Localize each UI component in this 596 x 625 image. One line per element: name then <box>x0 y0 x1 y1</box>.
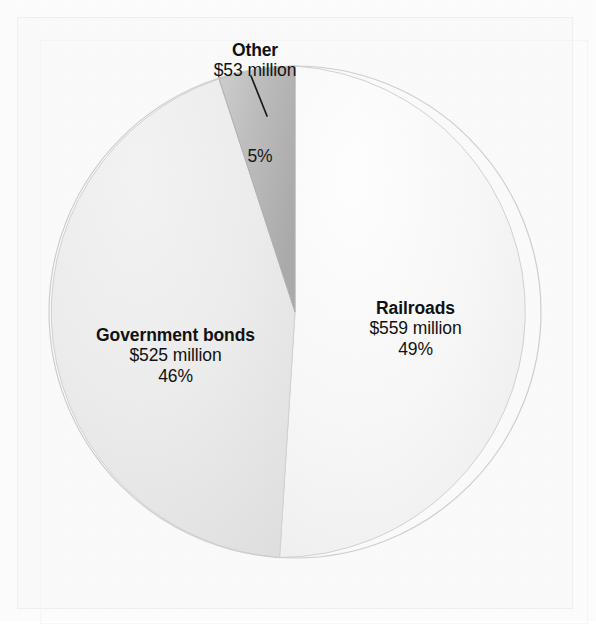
slice-label-other: Other $53 million <box>160 40 350 81</box>
slice-label-other-value: $53 million <box>160 60 350 80</box>
slice-label-government-bonds: Government bonds $525 million 46% <box>58 325 293 386</box>
slice-label-railroads-percent: 49% <box>328 339 503 359</box>
slice-label-other-percent: 5% <box>225 146 295 166</box>
slice-label-other-name: Other <box>160 40 350 60</box>
slice-label-other-percent-text: 5% <box>225 146 295 166</box>
slice-label-government-bonds-name: Government bonds <box>58 325 293 345</box>
slice-label-railroads-name: Railroads <box>328 298 503 318</box>
slice-label-government-bonds-percent: 46% <box>58 366 293 386</box>
slice-label-railroads-value: $559 million <box>328 318 503 338</box>
slice-label-railroads: Railroads $559 million 49% <box>328 298 503 359</box>
slice-label-government-bonds-value: $525 million <box>58 345 293 365</box>
